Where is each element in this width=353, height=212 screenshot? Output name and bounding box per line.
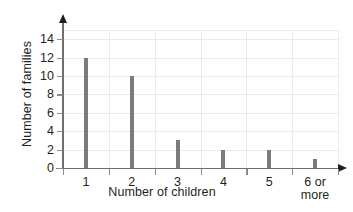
bar xyxy=(221,150,225,168)
x-axis-tick xyxy=(338,169,339,175)
gridline-vertical xyxy=(246,30,247,168)
y-axis-arrow-icon xyxy=(59,14,67,23)
x-axis-title: Number of children xyxy=(62,185,262,199)
bar xyxy=(130,76,134,168)
x-axis-tick xyxy=(155,169,156,175)
x-axis-arrow-icon xyxy=(338,164,347,172)
x-axis-tick xyxy=(63,169,64,175)
x-axis-tick xyxy=(292,169,293,175)
gridline-vertical xyxy=(338,30,339,168)
bar xyxy=(267,150,271,168)
x-axis-line xyxy=(56,168,339,170)
gridline-vertical xyxy=(201,30,202,168)
bar xyxy=(84,58,88,168)
y-axis-tick xyxy=(57,131,63,132)
plot-area xyxy=(63,30,338,168)
gridline-vertical xyxy=(155,30,156,168)
x-axis-tick xyxy=(109,169,110,175)
x-axis-tick-label-line: more xyxy=(287,189,343,202)
x-axis-tick-label: 6 ormore xyxy=(287,176,343,202)
y-axis-tick xyxy=(57,113,63,114)
y-axis-tick xyxy=(57,39,63,40)
x-axis-tick xyxy=(201,169,202,175)
bar xyxy=(176,140,180,168)
y-axis-tick xyxy=(57,94,63,95)
bar-chart: 02468101214 123456 ormore Number of fami… xyxy=(0,0,353,212)
gridline-vertical xyxy=(292,30,293,168)
y-axis-tick xyxy=(57,150,63,151)
gridline-vertical xyxy=(109,30,110,168)
y-axis-tick xyxy=(57,58,63,59)
x-axis-tick xyxy=(246,169,247,175)
y-axis-title: Number of families xyxy=(20,14,34,174)
y-axis-tick xyxy=(57,76,63,77)
